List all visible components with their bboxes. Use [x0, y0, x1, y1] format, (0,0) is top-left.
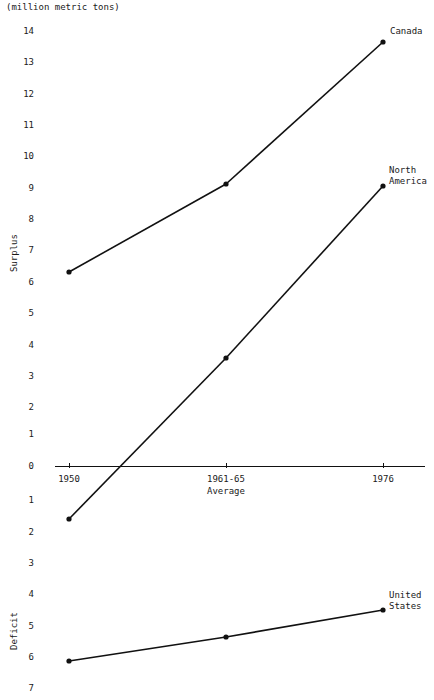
series-line-canada: [66, 39, 385, 274]
series-plot-layer: [0, 0, 434, 700]
data-point-marker: [66, 269, 71, 274]
data-point-marker: [66, 516, 71, 521]
data-point-marker: [223, 181, 228, 186]
series-label-north-america: North America: [389, 165, 427, 187]
series-label-canada: Canada: [390, 26, 423, 37]
data-point-marker: [380, 607, 385, 612]
data-point-marker: [223, 634, 228, 639]
series-line-north-america: [66, 183, 385, 521]
data-point-marker: [66, 658, 71, 663]
data-point-marker: [223, 355, 228, 360]
data-point-marker: [380, 39, 385, 44]
chart-canvas: (million metric tons) 14 13 12 11 10 9 8…: [0, 0, 434, 700]
data-point-marker: [380, 183, 385, 188]
series-label-united-states: United States: [389, 590, 422, 612]
series-line-united-states: [66, 607, 385, 663]
